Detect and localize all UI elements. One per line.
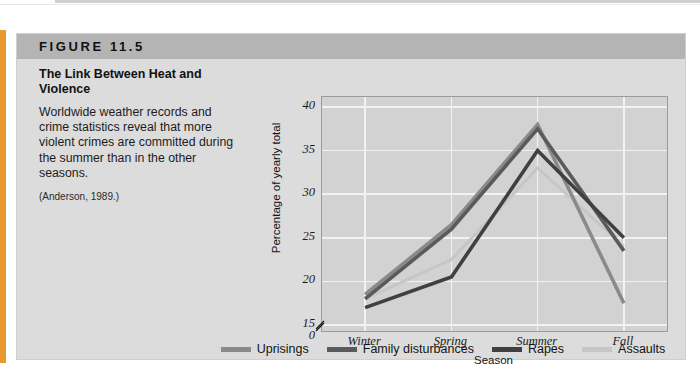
line-chart: 0152025303540 Percentage of yearly total…: [235, 62, 685, 357]
legend-label: Assaults: [618, 342, 665, 356]
plot-frame: [321, 96, 668, 332]
y-axis-tick-label: 25: [285, 229, 315, 244]
y-axis-tick-label: 20: [285, 272, 315, 287]
page-edge-accent-bar: [0, 30, 6, 363]
series-lines: [322, 97, 667, 331]
figure-caption-block: The Link Between Heat and Violence World…: [39, 67, 235, 202]
legend-item-family-disturbances[interactable]: Family disturbances: [327, 342, 474, 356]
figure-number-label: FIGURE 11.5: [39, 39, 145, 54]
y-axis-tick-label: 30: [285, 185, 315, 200]
y-axis-title: Percentage of yearly total: [270, 93, 282, 283]
legend-label: Rapes: [528, 342, 564, 356]
y-axis-tick-label: 40: [285, 98, 315, 113]
legend-item-uprisings[interactable]: Uprisings: [221, 342, 309, 356]
chart-legend: UprisingsFamily disturbancesRapesAssault…: [218, 340, 668, 358]
y-axis-ticks: 0152025303540: [281, 62, 315, 357]
legend-label: Family disturbances: [363, 342, 474, 356]
series-line-assaults: [365, 168, 624, 299]
legend-swatch: [327, 347, 357, 352]
legend-item-assaults[interactable]: Assaults: [582, 342, 665, 356]
legend-swatch: [221, 347, 251, 352]
y-axis-tick-label: 15: [285, 316, 315, 331]
legend-item-rapes[interactable]: Rapes: [492, 342, 564, 356]
figure-panel: FIGURE 11.5 The Link Between Heat and Vi…: [17, 34, 685, 359]
figure-caption-title: The Link Between Heat and Violence: [39, 67, 235, 97]
legend-swatch: [492, 347, 522, 352]
y-axis-break-icon: [315, 318, 325, 332]
figure-caption-body: Worldwide weather records and crime stat…: [39, 105, 235, 181]
figure-caption-source: (Anderson, 1989.): [39, 191, 235, 202]
legend-swatch: [582, 347, 612, 352]
page-top-rule: [55, 0, 700, 3]
y-axis-tick-label: 35: [285, 142, 315, 157]
page-top-rule-secondary: [0, 4, 700, 5]
legend-label: Uprisings: [257, 342, 309, 356]
